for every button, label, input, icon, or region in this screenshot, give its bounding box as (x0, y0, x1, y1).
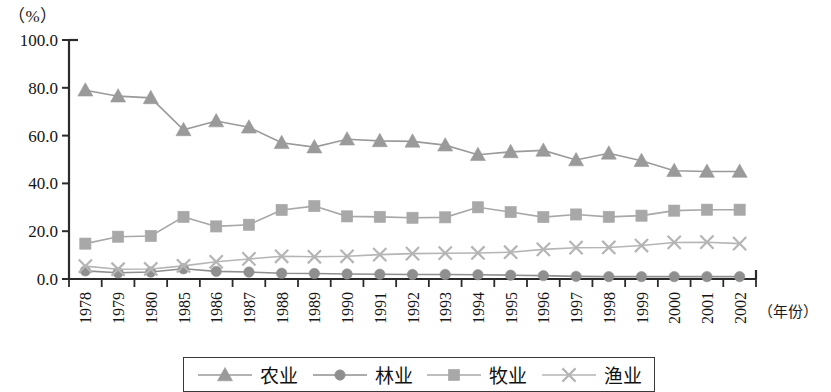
legend-item-农业[interactable]: 农业 (196, 361, 298, 388)
legend-marker-triangle-icon (196, 364, 254, 386)
y-tick-label: 80.0 (28, 79, 58, 98)
axis-lines (69, 40, 756, 279)
x-tick-label: 1997 (568, 292, 585, 324)
legend-label: 林业 (375, 361, 413, 388)
y-tick-label: 60.0 (28, 127, 58, 146)
x-tick-label: 1994 (470, 292, 487, 324)
chart-plot-svg: 0.020.040.060.080.0100.0 197819791980198… (0, 0, 831, 392)
x-tick-label: 1978 (77, 292, 94, 324)
x-tick-label: 2002 (732, 292, 749, 324)
x-tick-label: 1998 (601, 292, 618, 324)
y-axis-ticks: 0.020.040.060.080.0100.0 (20, 31, 69, 289)
x-tick-label: 2000 (666, 292, 683, 324)
legend-label: 牧业 (489, 361, 527, 388)
x-tick-label: 1996 (535, 292, 552, 324)
y-tick-label: 20.0 (28, 222, 58, 241)
x-tick-label: 1980 (143, 292, 160, 324)
y-tick-label: 40.0 (28, 174, 58, 193)
legend-item-林业[interactable]: 林业 (311, 361, 413, 388)
legend-marker-square-icon (425, 364, 483, 386)
chart-container: （%） 0.020.040.060.080.0100.0 19781979198… (0, 0, 831, 392)
legend-label: 农业 (260, 361, 298, 388)
chart-legend: 农业林业牧业渔业 (183, 357, 655, 392)
y-tick-label: 100.0 (20, 31, 58, 50)
x-tick-label: 1992 (405, 292, 422, 324)
x-tick-label: 1985 (176, 292, 193, 324)
x-tick-label: 1999 (634, 292, 651, 324)
x-tick-label: 2001 (699, 292, 716, 324)
x-tick-label: 1993 (437, 292, 454, 324)
legend-item-牧业[interactable]: 牧业 (425, 361, 527, 388)
x-tick-label: 1990 (339, 292, 356, 324)
x-tick-label: 1979 (110, 292, 127, 324)
x-tick-label: 1987 (241, 292, 258, 324)
x-tick-label: 1991 (372, 292, 389, 324)
x-axis-tick-labels: 1978197919801985198619871988198919901991… (77, 292, 748, 324)
x-tick-label: 1988 (274, 292, 291, 324)
x-tick-label: 1989 (306, 292, 323, 324)
series-0 (78, 83, 747, 178)
x-tick-label: 1995 (503, 292, 520, 324)
x-axis-ticks (69, 279, 756, 287)
x-axis-title: （年份） (758, 300, 818, 321)
y-tick-label: 0.0 (37, 270, 58, 289)
legend-item-渔业[interactable]: 渔业 (540, 361, 642, 388)
x-tick-label: 1986 (208, 292, 225, 324)
legend-label: 渔业 (604, 361, 642, 388)
legend-marker-cross-icon (540, 364, 598, 386)
data-series-layer (78, 83, 747, 282)
legend-marker-circle-icon (311, 364, 369, 386)
